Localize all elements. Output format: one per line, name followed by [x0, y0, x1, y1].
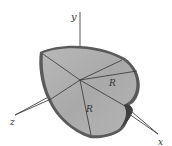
radius-label-1: R	[108, 78, 116, 88]
x-axis-label: x	[158, 137, 163, 146]
shell-inner-surface	[43, 48, 137, 135]
octant-shell-diagram: y z x R R	[0, 0, 172, 146]
z-axis-label: z	[9, 117, 15, 127]
x-axis-outer	[125, 106, 158, 134]
z-axis-outer	[15, 99, 51, 115]
radius-label-2: R	[85, 104, 93, 114]
y-axis-label: y	[70, 11, 77, 22]
